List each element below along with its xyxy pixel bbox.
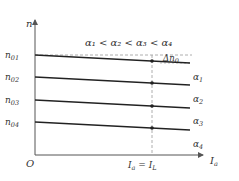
svg-text:n04: n04 xyxy=(5,117,19,129)
origin-label: O xyxy=(26,158,34,169)
svg-text:n03: n03 xyxy=(5,95,19,107)
svg-text:n01: n01 xyxy=(5,50,19,62)
svg-text:α4: α4 xyxy=(193,139,203,151)
svg-text:α3: α3 xyxy=(193,116,203,128)
x-axis-label: Ia xyxy=(209,155,218,168)
svg-text:α1: α1 xyxy=(193,72,203,84)
y-axis-label: n xyxy=(26,18,32,29)
svg-text:α2: α2 xyxy=(193,94,203,106)
condition-text: α₁ < α₂ < α₃ < α₄ xyxy=(85,37,172,48)
operating-point-label: Ia = IL xyxy=(127,160,157,172)
speed-current-diagram: n O Ia α₁ < α₂ < α₃ < α₄ Δn0 n01 α1 n02 … xyxy=(0,0,239,181)
svg-text:n02: n02 xyxy=(5,72,19,84)
